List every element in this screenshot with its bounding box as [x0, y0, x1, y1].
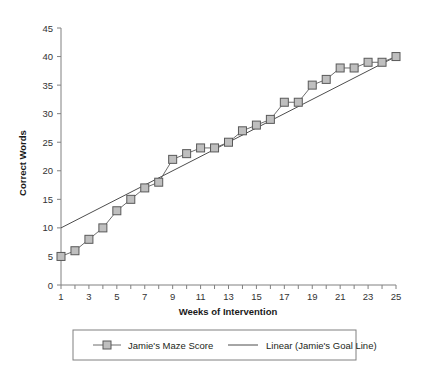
legend-marker-maze	[103, 341, 111, 349]
data-point-marker	[392, 53, 400, 61]
data-point-marker	[252, 121, 260, 129]
data-point-marker	[99, 224, 107, 232]
data-point-marker	[113, 207, 121, 215]
x-tick-label: 3	[86, 291, 91, 302]
data-point-marker	[350, 64, 358, 72]
y-tick-label: 30	[42, 108, 53, 119]
data-point-marker	[322, 75, 330, 83]
y-axis-title: Correct Words	[17, 130, 28, 196]
legend-label-goal-line: Linear (Jamie's Goal Line)	[266, 340, 377, 351]
x-tick-label: 19	[307, 291, 318, 302]
y-tick-label: 15	[42, 194, 53, 205]
legend-label-maze-score: Jamie's Maze Score	[128, 340, 213, 351]
x-tick-label: 21	[335, 291, 346, 302]
data-point-marker	[280, 98, 288, 106]
y-tick-label: 20	[42, 165, 53, 176]
data-point-marker	[85, 235, 93, 243]
data-point-marker	[308, 81, 316, 89]
maze-score-progress-chart: 051015202530354045 135791113151719212325…	[0, 0, 424, 374]
data-point-marker	[141, 184, 149, 192]
x-tick-label: 7	[142, 291, 147, 302]
y-tick-label: 25	[42, 137, 53, 148]
data-point-marker	[57, 252, 65, 260]
x-tick-label: 11	[196, 291, 206, 302]
chart-container: 051015202530354045 135791113151719212325…	[0, 0, 424, 374]
data-point-marker	[294, 98, 302, 106]
y-tick-label: 5	[48, 251, 53, 262]
x-tick-label: 25	[391, 291, 402, 302]
data-point-marker	[169, 155, 177, 163]
x-tick-label: 23	[363, 291, 374, 302]
data-point-marker	[364, 58, 372, 66]
data-point-marker	[238, 127, 246, 135]
x-axis-title: Weeks of Intervention	[179, 306, 278, 317]
data-point-marker	[183, 150, 191, 158]
data-point-marker	[197, 144, 205, 152]
x-tick-label: 17	[279, 291, 290, 302]
x-tick-label: 5	[114, 291, 119, 302]
data-point-marker	[225, 138, 233, 146]
data-point-marker	[266, 115, 274, 123]
data-point-marker	[155, 178, 163, 186]
x-tick-label: 9	[170, 291, 175, 302]
y-tick-label: 10	[42, 222, 53, 233]
x-tick-label: 1	[58, 291, 63, 302]
y-tick-label: 0	[48, 280, 53, 291]
data-point-marker	[378, 58, 386, 66]
y-tick-label: 35	[42, 80, 53, 91]
data-point-marker	[71, 247, 79, 255]
y-tick-label: 45	[42, 23, 53, 34]
data-point-marker	[211, 144, 219, 152]
x-tick-label: 13	[223, 291, 234, 302]
data-point-marker	[127, 195, 135, 203]
chart-background	[0, 0, 424, 374]
x-tick-label: 15	[251, 291, 262, 302]
data-point-marker	[336, 64, 344, 72]
y-tick-label: 40	[42, 51, 53, 62]
